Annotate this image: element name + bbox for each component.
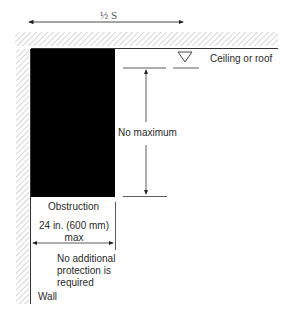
width-dimension-line1: 24 in. (600 mm) bbox=[38, 220, 110, 232]
note-line2: protection is bbox=[57, 265, 115, 277]
diagram-canvas bbox=[0, 0, 288, 314]
note-line1: No additional bbox=[57, 253, 115, 265]
elevation-triangle-icon bbox=[178, 52, 192, 62]
wall-hatch bbox=[16, 49, 29, 304]
obstruction-label: Obstruction bbox=[48, 201, 99, 213]
ceiling-label: Ceiling or roof bbox=[210, 53, 272, 65]
half-s-label: ½ S bbox=[100, 9, 117, 21]
width-dimension-label: 24 in. (600 mm) max bbox=[38, 220, 110, 244]
width-dimension-line2: max bbox=[38, 232, 110, 244]
no-maximum-label: No maximum bbox=[118, 127, 177, 139]
no-additional-protection-note: No additional protection is required bbox=[57, 253, 115, 289]
ceiling-hatch bbox=[15, 32, 278, 46]
wall-label: Wall bbox=[38, 291, 57, 303]
obstruction-block bbox=[31, 49, 115, 197]
note-line3: required bbox=[57, 277, 115, 289]
